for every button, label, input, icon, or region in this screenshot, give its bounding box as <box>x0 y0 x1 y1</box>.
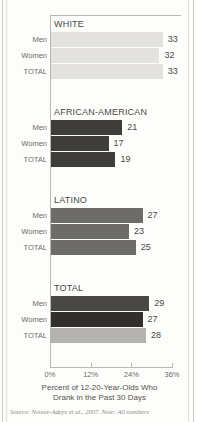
bar-row: Men33 <box>0 32 197 48</box>
bar-value-label: 32 <box>164 50 174 60</box>
bar-value-label: 19 <box>120 154 130 164</box>
bar-value-label: 27 <box>148 210 158 220</box>
bar-value-label: 29 <box>154 298 164 308</box>
bar <box>51 64 163 79</box>
bar-value-label: 21 <box>127 122 137 132</box>
chart-caption-line-2: Drank in the Past 30 Days <box>16 393 183 403</box>
bar-group-title: WHITE <box>54 19 84 29</box>
bar <box>51 208 143 223</box>
bar-row-label: Women <box>0 227 47 236</box>
bar-row-label: Women <box>0 139 47 148</box>
bar-row-label: TOTAL <box>0 331 47 340</box>
bar <box>51 312 143 327</box>
bar-value-label: 23 <box>134 226 144 236</box>
value-axis-tick <box>50 363 51 368</box>
value-axis-tick-label: 0% <box>45 370 56 379</box>
scanned-page: WHITEMen33Women32TOTAL33AFRICAN-AMERICAN… <box>0 0 197 422</box>
bar-group: AFRICAN-AMERICANMen21Women17TOTAL19 <box>0 107 197 168</box>
bar-group: LATINOMen27Women23TOTAL25 <box>0 195 197 256</box>
source-note: Source: Neuwe-Adeye et al., 2007. Note: … <box>10 408 187 416</box>
bar-row: Men21 <box>0 120 197 136</box>
value-axis-tick <box>172 363 173 368</box>
value-axis-tick-label: 36% <box>164 370 179 379</box>
chart-caption-line-1: Percent of 12-20-Year-Olds Who <box>16 383 183 393</box>
bar <box>51 152 115 167</box>
bar-group: WHITEMen33Women32TOTAL33 <box>0 19 197 80</box>
bar-group-title: AFRICAN-AMERICAN <box>54 107 147 117</box>
bar-value-label: 28 <box>151 330 161 340</box>
value-axis-tick-label: 12% <box>83 370 98 379</box>
bar-value-label: 27 <box>148 314 158 324</box>
bar <box>51 224 129 239</box>
bar-row: Women23 <box>0 224 197 240</box>
bar-value-label: 33 <box>168 34 178 44</box>
bar-row-label: Men <box>0 35 47 44</box>
bar-row: TOTAL28 <box>0 328 197 344</box>
bar-row: Men27 <box>0 208 197 224</box>
bar-group: TOTALMen29Women27TOTAL28 <box>0 283 197 344</box>
bar-value-label: 17 <box>114 138 124 148</box>
bar-row-label: Women <box>0 315 47 324</box>
bar-row: Women27 <box>0 312 197 328</box>
bar <box>51 48 159 63</box>
chart-caption: Percent of 12-20-Year-Olds Who Drank in … <box>16 383 183 403</box>
bar-group-title: LATINO <box>54 195 87 205</box>
bar-row-label: Men <box>0 299 47 308</box>
bar-row: Women17 <box>0 136 197 152</box>
value-axis-tick-label: 24% <box>124 370 139 379</box>
bar-row-label: TOTAL <box>0 67 47 76</box>
bar-value-label: 25 <box>141 242 151 252</box>
value-axis <box>50 367 173 368</box>
bar <box>51 240 136 255</box>
bar-row: TOTAL25 <box>0 240 197 256</box>
bar <box>51 328 146 343</box>
value-axis-tick <box>131 363 132 368</box>
bar-row-label: TOTAL <box>0 243 47 252</box>
bar <box>51 296 149 311</box>
bar-row-label: Men <box>0 123 47 132</box>
bar-row: TOTAL33 <box>0 64 197 80</box>
bar-value-label: 33 <box>168 66 178 76</box>
bar-group-title: TOTAL <box>54 283 83 293</box>
bar-chart: WHITEMen33Women32TOTAL33AFRICAN-AMERICAN… <box>0 0 197 422</box>
bar-row: Men29 <box>0 296 197 312</box>
bar-row: TOTAL19 <box>0 152 197 168</box>
bar <box>51 120 122 135</box>
bar-row-label: TOTAL <box>0 155 47 164</box>
bar <box>51 32 163 47</box>
bar <box>51 136 109 151</box>
bar-row: Women32 <box>0 48 197 64</box>
bar-row-label: Men <box>0 211 47 220</box>
bar-row-label: Women <box>0 51 47 60</box>
value-axis-tick <box>91 363 92 368</box>
chart-top-rule <box>50 15 181 16</box>
